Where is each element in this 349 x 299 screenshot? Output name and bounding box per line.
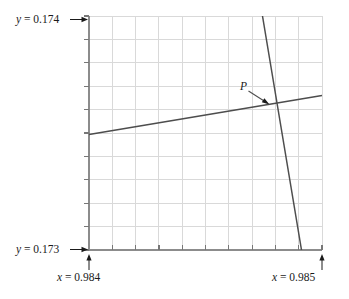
x-left-leader-arrow bbox=[86, 254, 91, 270]
x-right-leader-arrow bbox=[319, 254, 324, 270]
y-top-arrow-head bbox=[82, 17, 89, 22]
x-axis-right-label: x = 0.985 bbox=[272, 272, 315, 284]
point-p-label: P bbox=[240, 81, 247, 93]
x-right-arrow-head bbox=[319, 254, 324, 261]
x-axis-left-label: x = 0.984 bbox=[57, 272, 100, 284]
x-axis-ticks bbox=[112, 245, 322, 250]
annotation-arrow-head bbox=[262, 98, 270, 104]
y-bottom-arrow-head bbox=[82, 247, 89, 252]
x-axis-right-label-value: = 0.985 bbox=[277, 271, 315, 283]
x-left-arrow-head bbox=[86, 254, 91, 261]
y-axis-bottom-label-value: = 0.173 bbox=[21, 243, 59, 255]
y-axis-top-label-value: = 0.174 bbox=[21, 13, 59, 25]
grid-lines bbox=[89, 16, 322, 250]
y-bottom-leader-arrow bbox=[70, 247, 88, 252]
y-axis-ticks bbox=[84, 16, 89, 250]
y-axis-bottom-label: y = 0.173 bbox=[16, 244, 59, 256]
figure-container: y = 0.174 y = 0.173 x = 0.984 x = 0.985 … bbox=[0, 0, 349, 299]
y-top-leader-arrow bbox=[70, 17, 88, 22]
y-axis-top-label: y = 0.174 bbox=[16, 14, 59, 26]
x-axis-left-label-value: = 0.984 bbox=[62, 271, 100, 283]
